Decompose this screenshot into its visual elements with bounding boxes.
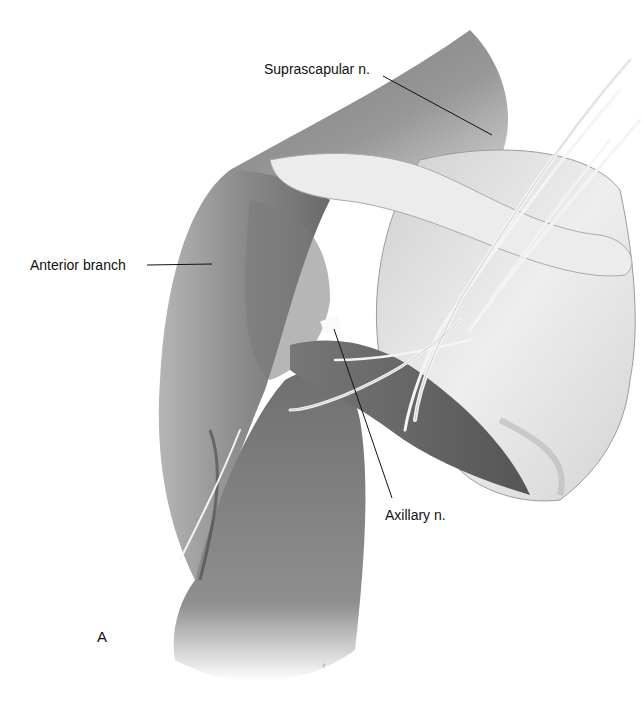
label-axillary-nerve: Axillary n. — [385, 508, 446, 522]
shoulder-anatomy-illustration: ~ — [0, 0, 643, 705]
label-suprascapular-nerve: Suprascapular n. — [264, 62, 370, 76]
panel-letter: A — [97, 628, 107, 645]
label-anterior-branch: Anterior branch — [30, 258, 126, 272]
